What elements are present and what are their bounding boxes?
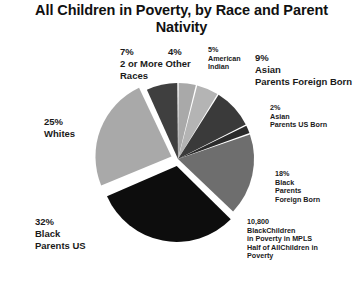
slice-label-black-parents-us: 32% Black Parents US <box>35 216 105 252</box>
slice-label-whites: 25% Whites <box>44 116 96 140</box>
slice-label-asian-us-born: 2% Asian Parents US Born <box>270 104 362 130</box>
slice-label-four-percent: 4% <box>168 46 182 58</box>
slice-label-black-foreign-born: 18% Black Parents Foreign Born <box>275 170 360 204</box>
pie-chart-figure: All Children in Poverty, by Race and Par… <box>0 0 363 284</box>
slice-label-asian-foreign-born: 9% Asian Parents Foreign Born <box>255 52 361 88</box>
annotation-mpls-black-children: 10,800 BlackChildren in Poverty in MPLS … <box>247 218 363 261</box>
slice-label-american-indian: 5% American Indian <box>208 46 248 72</box>
